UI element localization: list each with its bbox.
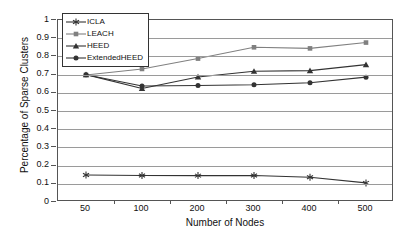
x-tick-mark (114, 200, 115, 204)
y-tick-mark (51, 74, 56, 75)
gridline (58, 111, 392, 112)
y-tick-label: 0.9 (36, 33, 49, 42)
legend-item-leach: LEACH (63, 28, 148, 40)
square-marker (364, 40, 369, 45)
y-tick-mark (51, 165, 56, 166)
legend-label: ICLA (87, 18, 105, 26)
legend-marker-sample (65, 40, 87, 52)
legend-item-extendedheed: ExtendedHEED (63, 52, 148, 64)
gridline (58, 75, 392, 76)
x-tick-label: 300 (233, 204, 273, 213)
gridline (58, 147, 392, 148)
x-tick-mark (282, 200, 283, 204)
y-tick-label: 0 (44, 197, 49, 206)
asterisk-marker (139, 172, 145, 179)
circle-marker (252, 82, 257, 87)
x-tick-label: 100 (121, 204, 161, 213)
circle-marker (196, 83, 201, 88)
y-tick-label: 0.6 (36, 87, 49, 96)
gridline (58, 166, 392, 167)
gridline (58, 93, 392, 94)
x-tick-label: 400 (289, 204, 329, 213)
y-tick-mark (51, 110, 56, 111)
triangle-marker (139, 85, 145, 91)
y-tick-label: 0.5 (36, 106, 49, 115)
triangle-marker (307, 67, 313, 73)
legend-marker-sample (65, 52, 87, 64)
x-axis-label: Number of Nodes (57, 218, 393, 228)
square-marker (140, 67, 145, 72)
triangle-marker (251, 68, 257, 74)
triangle-marker (363, 61, 369, 67)
asterisk-marker (195, 172, 201, 179)
y-tick-mark (51, 201, 56, 202)
legend-label: ExtendedHEED (87, 54, 143, 62)
y-tick-mark (51, 92, 56, 93)
circle-marker (140, 84, 145, 89)
chart-figure: 00.10.20.30.40.50.60.70.80.91 Percentage… (0, 0, 413, 235)
x-tick-mark (338, 200, 339, 204)
asterisk-marker (83, 172, 89, 179)
y-tick-label: 1 (44, 15, 49, 24)
legend-label: LEACH (87, 30, 114, 38)
y-tick-label: 0.8 (36, 51, 49, 60)
square-marker (308, 46, 313, 51)
y-tick-mark (51, 183, 56, 184)
legend-label: HEED (87, 42, 109, 50)
x-tick-label: 200 (177, 204, 217, 213)
asterisk-marker (251, 172, 257, 179)
x-tick-label: 50 (65, 204, 105, 213)
legend-item-heed: HEED (63, 40, 148, 52)
gridline (58, 129, 392, 130)
legend-marker-sample (65, 16, 87, 28)
x-tick-label: 500 (345, 204, 385, 213)
y-tick-label: 0.4 (36, 124, 49, 133)
y-axis-label: Percentage of Sparse Clusters (20, 10, 30, 200)
y-tick-mark (51, 55, 56, 56)
chart-legend: ICLALEACHHEEDExtendedHEED (62, 13, 149, 67)
x-tick-mark (226, 200, 227, 204)
y-tick-label: 0.7 (36, 69, 49, 78)
x-tick-mark (170, 200, 171, 204)
legend-item-icla: ICLA (63, 16, 148, 28)
gridline (58, 184, 392, 185)
square-marker (74, 32, 79, 37)
square-marker (252, 45, 257, 50)
y-tick-mark (51, 37, 56, 38)
y-tick-label: 0.1 (36, 178, 49, 187)
y-tick-mark (51, 128, 56, 129)
asterisk-marker (307, 174, 313, 181)
y-tick-label: 0.3 (36, 142, 49, 151)
legend-marker-sample (65, 28, 87, 40)
series-line (86, 175, 366, 183)
y-tick-mark (51, 19, 56, 20)
y-tick-label: 0.2 (36, 160, 49, 169)
series-line (86, 65, 366, 89)
y-tick-mark (51, 146, 56, 147)
series-line (86, 75, 366, 86)
circle-marker (74, 56, 79, 61)
circle-marker (308, 80, 313, 85)
